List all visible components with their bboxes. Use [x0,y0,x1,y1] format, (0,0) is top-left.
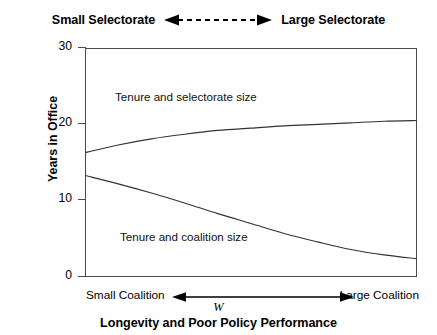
curve-tenure-selectorate-main [85,121,417,153]
y-tick-label: 10 [36,191,72,205]
y-tick-label: 20 [36,115,72,129]
curve-label-tenure-coalition: Tenure and coalition size [120,230,248,243]
dashed-double-arrow-icon [164,13,272,27]
y-tick-label: 30 [36,39,72,53]
top-axis-annotation: Small Selectorate Large Selectorate [0,9,437,31]
figure-longevity-poor-policy: Small Selectorate Large Selectorate Year… [0,0,437,335]
y-tick-label: 0 [36,268,72,282]
x-axis-symbol-w: W [0,300,437,315]
bottom-axis-annotation: Small Coalition W Large Coalition [0,288,437,312]
top-axis-right-label: Large Selectorate [281,13,385,27]
y-axis-title: Years in Office [46,39,60,239]
top-axis-left-label: Small Selectorate [52,13,155,27]
curve-label-tenure-selectorate: Tenure and selectorate size [115,90,257,103]
figure-caption: Longevity and Poor Policy Performance [0,316,437,330]
curve-tenure-coalition [85,175,417,258]
bottom-axis-right-label: Large Coalition [340,288,419,302]
